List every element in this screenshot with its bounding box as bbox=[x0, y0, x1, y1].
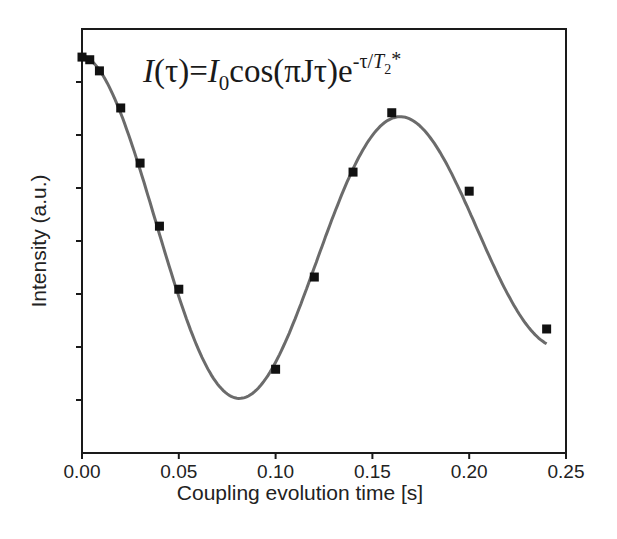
y-axis-label: Intensity (a.u.) bbox=[27, 174, 50, 307]
x-tick-label: 0.15 bbox=[354, 461, 391, 482]
chart: 0.000.050.100.150.200.25 I(τ)=I0cos(πJτ)… bbox=[0, 0, 617, 539]
x-tick-label: 0.00 bbox=[64, 461, 101, 482]
formula-annotation: I(τ)=I0cos(πJτ)e-τ/T2* bbox=[142, 48, 401, 95]
x-axis-tick-labels: 0.000.050.100.150.200.25 bbox=[64, 461, 585, 482]
data-point bbox=[310, 273, 319, 282]
data-point bbox=[271, 365, 280, 374]
x-tick-label: 0.25 bbox=[548, 461, 585, 482]
data-point bbox=[155, 222, 164, 231]
data-point bbox=[465, 187, 474, 196]
x-axis-label: Coupling evolution time [s] bbox=[177, 481, 423, 504]
data-point bbox=[387, 108, 396, 117]
data-point bbox=[85, 55, 94, 64]
fit-curve bbox=[82, 56, 547, 399]
data-point bbox=[349, 168, 358, 177]
data-point bbox=[136, 159, 145, 168]
x-tick-label: 0.05 bbox=[160, 461, 197, 482]
x-tick-label: 0.10 bbox=[257, 461, 294, 482]
data-point bbox=[174, 285, 183, 294]
data-point bbox=[116, 103, 125, 112]
data-points bbox=[78, 53, 552, 374]
x-tick-label: 0.20 bbox=[451, 461, 488, 482]
data-point bbox=[542, 324, 551, 333]
data-point bbox=[95, 66, 104, 75]
data-point bbox=[78, 53, 87, 62]
